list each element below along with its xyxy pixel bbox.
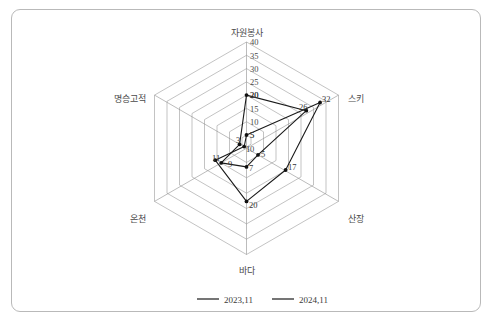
value-label-2024-scenic: 1 (246, 144, 250, 154)
point-2023-2 (256, 153, 260, 157)
value-label-2024-sea: 20 (249, 200, 258, 210)
tick-label-40: 40 (250, 37, 259, 47)
axis-label-hotspring: 온천 (130, 214, 146, 224)
value-label-2023-volunteer: 20 (250, 90, 259, 100)
value-label-2024-hotspring: 9 (228, 159, 232, 169)
legend-label-2024[interactable]: 2024,11 (299, 295, 328, 305)
value-label-2023-ski: 26 (299, 102, 308, 112)
value-label-2024-volunteer: 5 (250, 130, 254, 140)
axis-label-ski: 스키 (348, 94, 364, 104)
point-2024-0 (245, 133, 249, 137)
tick-label-0: 0 (250, 144, 254, 154)
value-label-2024-lodge: 17 (288, 162, 297, 172)
tick-label-35: 35 (250, 51, 259, 61)
point-2024-2 (284, 168, 288, 172)
value-label-2023-hotspring: 11 (212, 153, 220, 163)
point-2023-0 (245, 93, 249, 97)
axis-label-scenic: 명승고적 (114, 93, 146, 104)
spoke-4 (155, 148, 247, 201)
tick-label-30: 30 (250, 64, 259, 74)
value-label-2023-lodge: 5 (261, 149, 265, 159)
tick-label-25: 25 (250, 77, 259, 87)
value-label-2023-sea: 7 (249, 163, 253, 173)
radar-chart-svg: 40 35 30 25 20 15 10 5 0 자원봉사 스키 산장 바다 온… (0, 0, 493, 330)
tick-label-10: 10 (250, 117, 259, 127)
point-2023-3 (245, 165, 249, 169)
value-label-2024-ski: 32 (322, 94, 331, 104)
chart-legend: 2023,11 2024,11 (197, 295, 328, 305)
radar-chart: 40 35 30 25 20 15 10 5 0 자원봉사 스키 산장 바다 온… (0, 0, 493, 330)
point-2024-3 (245, 200, 249, 204)
tick-label-15: 15 (250, 104, 259, 114)
legend-label-2023[interactable]: 2023,11 (224, 295, 253, 305)
axis-label-lodge: 산장 (348, 214, 364, 224)
axis-label-sea: 바다 (239, 266, 256, 276)
category-axis-labels: 자원봉사 스키 산장 바다 온천 명승고적 (114, 28, 364, 276)
value-label-2023-scenic: 3 (236, 135, 240, 145)
axis-label-volunteer: 자원봉사 (231, 28, 264, 38)
